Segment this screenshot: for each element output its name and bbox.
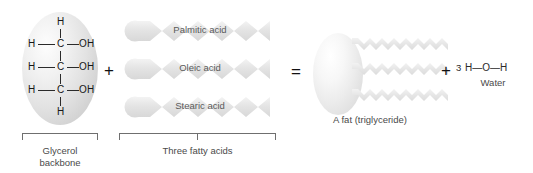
atom-h-bottom: H <box>57 107 64 117</box>
atom-oh-2: OH <box>79 62 94 72</box>
atom-c-1: C <box>57 39 64 49</box>
fatty-acids-bracket <box>119 133 276 141</box>
fatty-acids-caption: Three fatty acids <box>119 145 276 157</box>
bond-h-left-2 <box>38 67 55 68</box>
glycerol-caption: Glycerol backbone <box>20 145 100 168</box>
fatty-acid-label-3: Stearic acid <box>126 101 274 111</box>
atom-h-left-3: H <box>28 85 35 95</box>
operator-equals: = <box>291 63 301 80</box>
bond-vertical-top <box>60 29 61 38</box>
glycerol-bracket <box>22 133 98 141</box>
water-caption: Water <box>465 78 521 88</box>
atom-c-3: C <box>57 85 64 95</box>
triglyceride-diagram: H H C OH H C OH H C OH H Glycerol backbo… <box>0 0 533 173</box>
water-coefficient: 3 <box>456 63 461 73</box>
water-formula: H—O—H <box>465 63 507 73</box>
bracket-tick-left <box>119 133 120 140</box>
atom-h-left-2: H <box>28 62 35 72</box>
bond-h-left-3 <box>38 90 55 91</box>
bond-vertical-1-2 <box>60 51 61 61</box>
atom-h-left-1: H <box>28 39 35 49</box>
fatty-acid-label-2: Oleic acid <box>126 63 274 73</box>
bond-vertical-bottom <box>60 97 61 106</box>
atom-c-2: C <box>57 62 64 72</box>
bond-vertical-2-3 <box>60 74 61 84</box>
bracket-tick-right <box>97 133 98 140</box>
fatty-acid-label-1: Palmitic acid <box>126 25 274 35</box>
fat-tail-1 <box>352 35 450 51</box>
fat-tail-3 <box>352 86 450 102</box>
fat-caption: A fat (triglyceride) <box>305 114 435 126</box>
bond-h-right-1 <box>67 44 79 45</box>
atom-oh-1: OH <box>79 39 94 49</box>
atom-oh-3: OH <box>79 85 94 95</box>
bracket-tick-center <box>197 133 198 140</box>
operator-plus-1: + <box>104 62 114 79</box>
atom-h-top: H <box>57 17 64 27</box>
fat-tail-2 <box>352 60 450 76</box>
glycerol-formula: H H C OH H C OH H C OH H <box>22 12 98 125</box>
operator-plus-2: + <box>441 62 451 79</box>
bracket-bar <box>22 133 98 134</box>
bond-h-right-3 <box>67 90 79 91</box>
bracket-tick-left <box>22 133 23 140</box>
bond-h-right-2 <box>67 67 79 68</box>
bracket-tick-right <box>275 133 276 140</box>
bond-h-left-1 <box>38 44 55 45</box>
